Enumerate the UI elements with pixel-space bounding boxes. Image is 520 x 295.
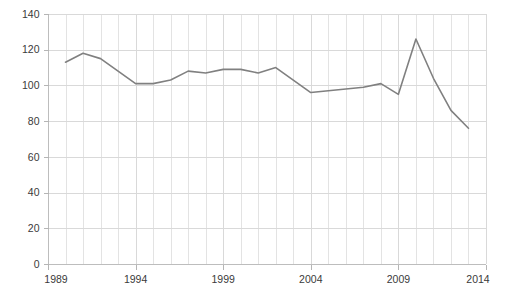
y-axis-label: 40 <box>28 186 40 198</box>
y-axis-label: 80 <box>28 115 40 127</box>
y-axis-label: 120 <box>22 43 40 55</box>
line-chart: 020406080100120140 198919941999200420092… <box>0 0 520 295</box>
x-axis-label: 1989 <box>44 273 68 285</box>
y-axis-label: 140 <box>22 8 40 20</box>
data-line-series-1 <box>66 39 469 128</box>
x-axis-label: 2004 <box>299 273 323 285</box>
tick-marks <box>44 15 487 270</box>
y-axis-tick-labels: 020406080100120140 <box>22 8 40 270</box>
axis-lines <box>49 14 487 265</box>
x-axis-tick-labels: 198919941999200420092014 <box>44 273 490 285</box>
x-axis-label: 2014 <box>466 273 490 285</box>
y-axis-label: 0 <box>34 258 40 270</box>
x-axis-label: 2009 <box>387 273 411 285</box>
data-series-group <box>66 39 469 128</box>
chart-canvas: 020406080100120140 198919941999200420092… <box>0 0 520 295</box>
minor-vertical-gridlines <box>67 14 469 264</box>
y-axis-label: 100 <box>22 79 40 91</box>
horizontal-gridlines <box>48 15 486 229</box>
y-axis-label: 60 <box>28 151 40 163</box>
x-axis-label: 1994 <box>124 273 148 285</box>
x-axis-label: 1999 <box>212 273 236 285</box>
y-axis-label: 20 <box>28 222 40 234</box>
